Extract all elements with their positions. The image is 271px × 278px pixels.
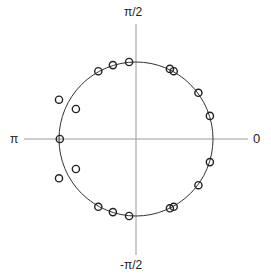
- data-point-marker: [95, 203, 102, 210]
- axis-label-left: π: [10, 133, 18, 145]
- data-point-marker: [55, 175, 62, 182]
- axis-label-bottom: -π/2: [120, 259, 142, 271]
- data-point-marker: [95, 68, 102, 75]
- axis-label-top: π/2: [124, 6, 142, 18]
- data-point-marker: [72, 165, 79, 172]
- data-point-marker: [72, 105, 79, 112]
- plot-area: [0, 0, 271, 278]
- data-point-marker: [195, 182, 202, 189]
- data-point-marker: [195, 89, 202, 96]
- axis-label-right: 0: [253, 132, 260, 145]
- data-point-marker: [55, 96, 62, 103]
